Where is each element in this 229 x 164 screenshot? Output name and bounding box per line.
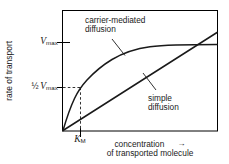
annotation-carrier-mediated-diffusion: carrier-mediated diffusion [85, 16, 145, 35]
ytick-vmax-subscript: max [46, 39, 58, 46]
y-axis-title: rate of transport [5, 30, 15, 112]
x-axis-title: concentration→ of transported molecule [76, 139, 224, 159]
carrier-mediated-curve [63, 45, 217, 131]
ytick-label-half-vmax: ½ Vmax [14, 81, 58, 92]
x-axis-title-line2: of transported molecule [76, 149, 224, 158]
annotation-simple-diffusion: simple diffusion [148, 94, 179, 113]
ytick-half-vmax-subscript: max [46, 84, 58, 91]
ytick-half-fraction: ½ [31, 81, 40, 91]
annotation-simple-line2: diffusion [148, 103, 179, 112]
transport-kinetics-figure: rate of transport Vmax ½ Vmax KM carrier… [0, 0, 229, 164]
right-arrow-icon: → [177, 139, 185, 148]
carrier-label-leader-line [112, 39, 125, 56]
annotation-carrier-line2: diffusion [85, 25, 145, 34]
ytick-label-vmax: Vmax [24, 36, 58, 47]
